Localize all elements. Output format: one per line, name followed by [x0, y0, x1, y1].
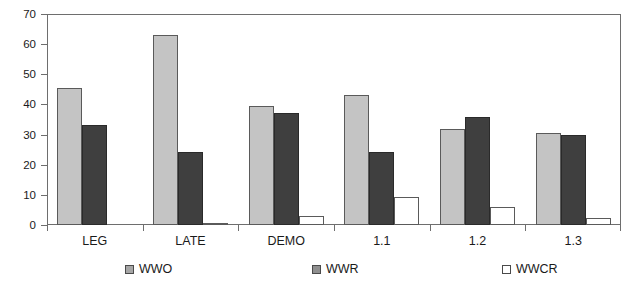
bar-chart: 010203040506070 LEGLATEDEMO1.11.21.3 WWO…	[0, 0, 632, 294]
x-axis-tick-mark	[430, 225, 431, 231]
legend-label: WWR	[326, 262, 359, 276]
x-axis-tick-mark	[47, 225, 48, 231]
bar-wwo-1-3	[536, 133, 561, 225]
x-axis-tick-mark	[334, 225, 335, 231]
x-axis-tick-mark	[238, 225, 239, 231]
bar-wwo-late	[153, 35, 178, 225]
bar-wwr-leg	[82, 125, 107, 225]
bar-wwcr-1-3	[586, 218, 611, 225]
bar-wwr-late	[178, 152, 203, 225]
bar-wwcr-1-2	[490, 207, 515, 225]
bar-wwr-demo	[274, 113, 299, 225]
y-axis: 010203040506070	[0, 14, 47, 225]
legend-item-wwo[interactable]: WWO	[125, 262, 172, 276]
bar-wwo-1-2	[440, 129, 465, 225]
bar-wwcr-demo	[299, 216, 324, 225]
x-axis: LEGLATEDEMO1.11.21.3	[47, 225, 621, 255]
bar-group	[238, 14, 334, 225]
legend-swatch-icon	[502, 265, 511, 274]
y-axis-tick-label: 30	[23, 127, 36, 143]
x-axis-label: LATE	[175, 233, 205, 249]
legend-label: WWO	[139, 262, 172, 276]
x-axis-tick-mark	[143, 225, 144, 231]
x-axis-tick-mark	[525, 225, 526, 231]
legend-label: WWCR	[516, 262, 558, 276]
y-axis-tick-label: 0	[30, 217, 36, 233]
legend-swatch-icon	[312, 265, 321, 274]
y-axis-tick-label: 10	[23, 187, 36, 203]
bars-layer	[47, 14, 621, 225]
bar-wwr-1-3	[561, 135, 586, 225]
x-axis-tick-mark	[620, 225, 621, 231]
bar-group	[430, 14, 526, 225]
bar-wwr-1-2	[465, 117, 490, 226]
bar-wwcr-1-1	[394, 197, 419, 225]
bar-wwr-1-1	[369, 152, 394, 225]
y-axis-tick-label: 60	[23, 36, 36, 52]
x-axis-label: 1.1	[373, 233, 390, 249]
x-axis-label: 1.3	[564, 233, 581, 249]
chart-legend: WWOWWRWWCR	[47, 262, 621, 284]
legend-item-wwcr[interactable]: WWCR	[502, 262, 558, 276]
bar-wwo-1-1	[344, 95, 369, 225]
bar-group	[143, 14, 239, 225]
y-axis-tick-label: 40	[23, 96, 36, 112]
y-axis-tick-label: 70	[23, 6, 36, 22]
x-axis-label: LEG	[82, 233, 107, 249]
bar-group	[334, 14, 430, 225]
legend-swatch-icon	[125, 265, 134, 274]
y-axis-tick-label: 20	[23, 157, 36, 173]
x-axis-label: 1.2	[469, 233, 486, 249]
bar-wwo-leg	[57, 88, 82, 225]
x-axis-label: DEMO	[267, 233, 305, 249]
y-axis-tick-label: 50	[23, 66, 36, 82]
bar-group	[525, 14, 621, 225]
bar-group	[47, 14, 143, 225]
bar-wwo-demo	[249, 106, 274, 225]
legend-item-wwr[interactable]: WWR	[312, 262, 359, 276]
